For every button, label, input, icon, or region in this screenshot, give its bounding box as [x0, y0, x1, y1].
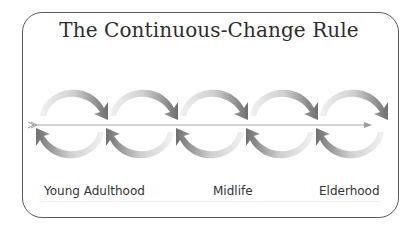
stage-label-young-adulthood: Young Adulthood: [44, 184, 145, 198]
loop-icon: [106, 90, 178, 159]
diagram-title: The Continuous-Change Rule: [0, 18, 418, 42]
stage-label-midlife: Midlife: [213, 184, 253, 198]
timeline-arrow: [28, 122, 372, 128]
stage-label-elderhood: Elderhood: [319, 184, 380, 198]
loop-icon: [246, 90, 318, 159]
stage-labels: Young Adulthood Midlife Elderhood: [22, 178, 399, 202]
cycle-arrows-diagram: [28, 80, 398, 170]
loop-icon: [316, 90, 388, 159]
arrowhead-icon: [364, 122, 372, 128]
loop-icon: [36, 90, 108, 159]
divider: [40, 201, 380, 202]
loop-arrows: [36, 90, 388, 159]
loop-icon: [176, 90, 248, 159]
